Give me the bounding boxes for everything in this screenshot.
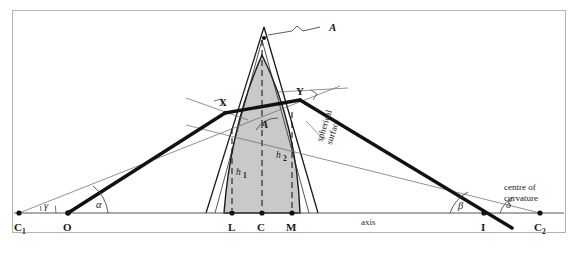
diagram-canvas: C 1 O L C M I C 2 X Y γ α β δ h 1 h 2 A … <box>0 0 578 256</box>
label-point-L: L <box>228 221 235 233</box>
centre-of-curvature-line-1: centre of <box>504 182 536 192</box>
label-height-h2-sub: 2 <box>283 154 287 163</box>
label-point-I: I <box>481 221 485 233</box>
label-point-C2: C <box>534 221 542 233</box>
label-point-C2-sub: 2 <box>542 227 546 236</box>
label-angle-alpha: α <box>96 199 102 210</box>
label-point-C1: C <box>14 221 22 233</box>
label-apex-A: A <box>328 21 336 33</box>
label-point-M: M <box>286 221 297 233</box>
label-height-h1-sub: 1 <box>243 171 247 180</box>
point-dot-C <box>259 210 264 215</box>
label-height-h1: h <box>236 167 241 177</box>
optics-ray-diagram-figure: C 1 O L C M I C 2 X Y γ α β δ h 1 h 2 A … <box>0 0 578 256</box>
annotation-centre-of-curvature: centre of curvature <box>504 182 538 203</box>
apex-point <box>262 36 266 40</box>
label-point-X: X <box>219 96 227 108</box>
label-point-C1-sub: 1 <box>22 227 26 236</box>
point-dot-C1 <box>16 210 21 215</box>
label-prism-angle-A: A <box>260 118 268 130</box>
label-axis: axis <box>361 217 376 227</box>
point-dot-I <box>481 210 486 215</box>
label-point-O: O <box>63 221 72 233</box>
point-dot-O <box>65 210 71 216</box>
label-angle-beta: β <box>457 200 464 211</box>
point-dot-C2 <box>537 210 542 215</box>
point-dot-M <box>289 210 294 215</box>
point-dot-L <box>229 210 234 215</box>
centre-of-curvature-line-2: curvature <box>504 193 538 203</box>
label-point-C: C <box>257 221 265 233</box>
label-point-Y: Y <box>296 85 304 97</box>
label-height-h2: h <box>276 150 281 160</box>
